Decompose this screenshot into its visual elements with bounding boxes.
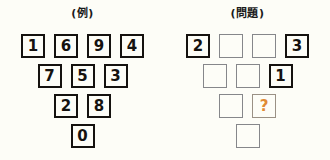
question-cell-1-1: 2 [186, 34, 210, 58]
question-panel: (問題) 2 3 1 ? [165, 0, 330, 160]
example-row-2: 7 5 3 [0, 64, 165, 94]
question-row-1: 2 3 [165, 34, 330, 64]
example-cell-3-1: 2 [54, 94, 78, 118]
question-row-4 [165, 124, 330, 154]
example-cell-1-3: 9 [87, 34, 111, 58]
question-cell-2-1[interactable] [203, 64, 227, 88]
question-row-2: 1 [165, 64, 330, 94]
question-row-3: ? [165, 94, 330, 124]
question-cell-1-2[interactable] [219, 34, 243, 58]
question-cell-2-3: 1 [269, 64, 293, 88]
question-cell-4-1[interactable] [236, 124, 260, 148]
question-cell-answer[interactable]: ? [252, 94, 276, 118]
question-grid: 2 3 1 ? [165, 34, 330, 154]
example-panel: (例) 1 6 9 4 7 5 3 2 8 0 [0, 0, 165, 160]
example-panel-title: (例) [0, 7, 165, 21]
example-cell-1-4: 4 [120, 34, 144, 58]
question-cell-1-4: 3 [285, 34, 309, 58]
example-cell-3-2: 8 [87, 94, 111, 118]
question-cell-3-1[interactable] [219, 94, 243, 118]
question-cell-1-3[interactable] [252, 34, 276, 58]
example-row-3: 2 8 [0, 94, 165, 124]
example-cell-4-1: 0 [71, 124, 95, 148]
question-panel-title: (問題) [165, 7, 330, 21]
example-cell-2-3: 3 [104, 64, 128, 88]
example-cell-1-1: 1 [21, 34, 45, 58]
example-cell-2-2: 5 [71, 64, 95, 88]
example-cell-1-2: 6 [54, 34, 78, 58]
example-cell-2-1: 7 [38, 64, 62, 88]
example-row-4: 0 [0, 124, 165, 154]
question-cell-2-2[interactable] [236, 64, 260, 88]
puzzle-root: (例) 1 6 9 4 7 5 3 2 8 0 (問題) [0, 0, 330, 160]
example-row-1: 1 6 9 4 [0, 34, 165, 64]
example-grid: 1 6 9 4 7 5 3 2 8 0 [0, 34, 165, 154]
